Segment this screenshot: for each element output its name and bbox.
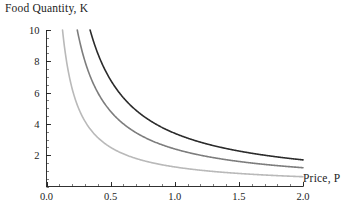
plot-area (0, 0, 351, 213)
y-tick-label: 8 (0, 56, 40, 67)
y-tick-label: 6 (0, 87, 40, 98)
data-curves (63, 30, 303, 177)
x-tick-label: 0.5 (104, 191, 117, 202)
x-tick-label: 0.0 (40, 191, 53, 202)
y-tick-label: 10 (0, 25, 40, 36)
low-budget-curve (63, 30, 303, 177)
y-tick-label: 4 (0, 118, 40, 129)
high-budget-curve (90, 30, 303, 160)
x-tick-label: 1.5 (232, 191, 245, 202)
y-tick-label: 2 (0, 150, 40, 161)
chart-figure: Food Quantity, K Price, P 0.00.51.01.52.… (0, 0, 351, 213)
x-tick-label: 2.0 (296, 191, 309, 202)
x-tick-label: 1.0 (168, 191, 181, 202)
y-axis-major-ticks (47, 31, 52, 156)
